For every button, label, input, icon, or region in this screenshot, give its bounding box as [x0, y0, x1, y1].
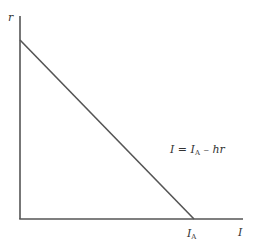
equation-rhs: – hr: [200, 143, 225, 156]
x-intercept-sub: A: [191, 233, 196, 241]
equation-label: I = IA – hr: [170, 144, 225, 157]
equation-lhs: I = I: [170, 143, 195, 156]
diagram-svg: [0, 0, 257, 247]
x-intercept-label: IA: [187, 228, 196, 241]
y-axis-label: r: [8, 12, 13, 23]
diagram-canvas: r I IA I = IA – hr: [0, 0, 257, 247]
demand-line: [20, 40, 194, 219]
x-axis-label: I: [238, 227, 242, 238]
